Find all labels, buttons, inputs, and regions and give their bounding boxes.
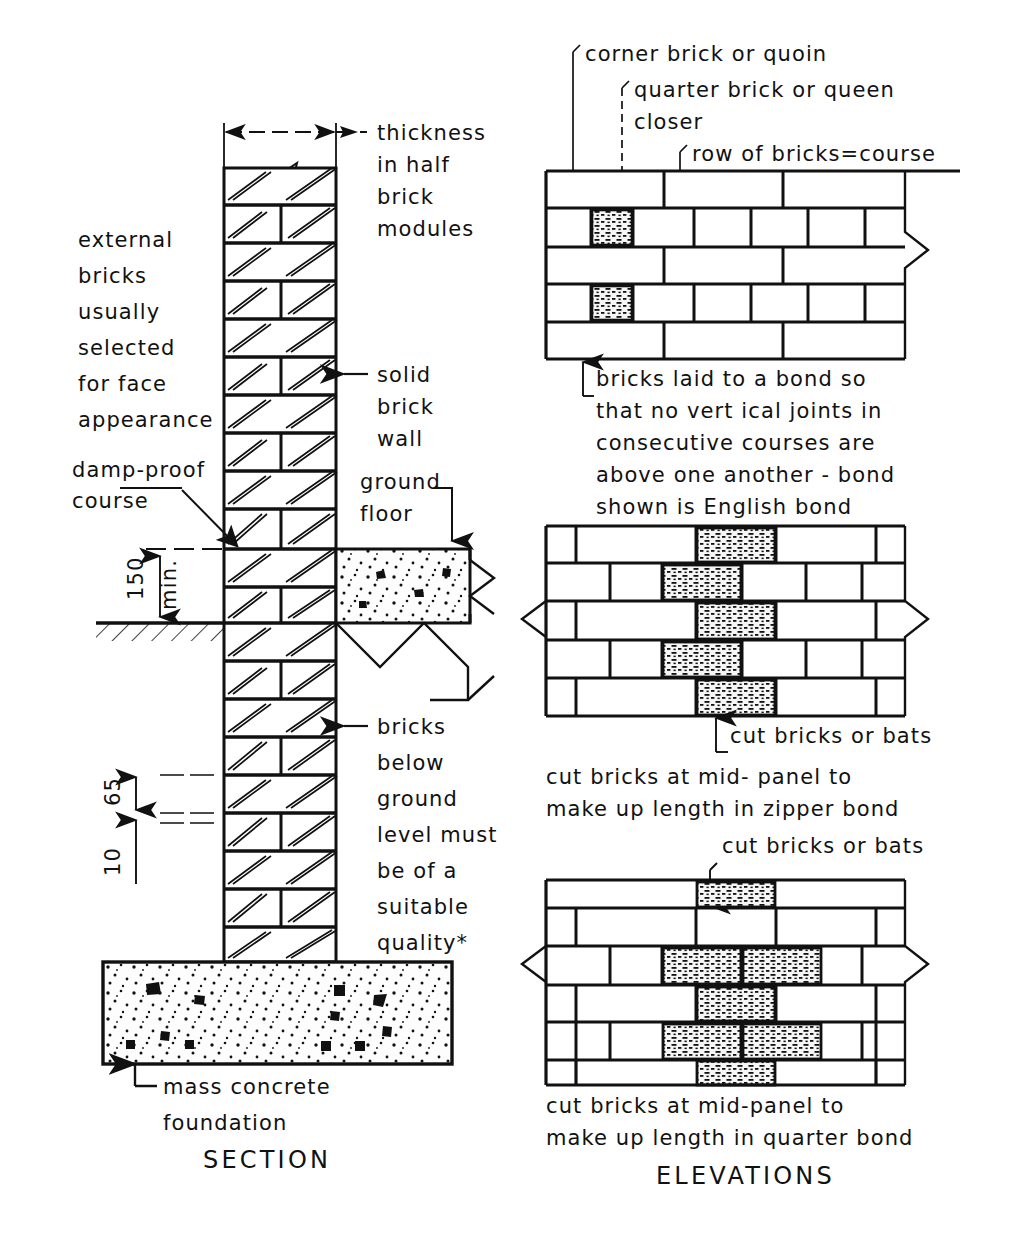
svg-text:for face: for face	[78, 372, 167, 396]
svg-text:modules: modules	[377, 217, 474, 241]
svg-text:foundation: foundation	[163, 1111, 287, 1135]
queen-closer-brick	[592, 210, 632, 245]
dimension-10-value: 10	[101, 847, 125, 876]
callout-closer: closer	[634, 110, 703, 134]
svg-text:floor: floor	[360, 502, 413, 526]
svg-text:course: course	[72, 489, 149, 513]
svg-text:suitable: suitable	[377, 895, 469, 919]
drawing-sheet: 150 min. 65 10	[0, 0, 1026, 1237]
dimension-150-qualifier: min.	[157, 559, 181, 610]
technical-drawing-canvas: 150 min. 65 10	[0, 0, 1026, 1237]
svg-text:ground: ground	[360, 470, 441, 494]
callout-row-of-bricks: row of bricks=course	[692, 142, 936, 166]
svg-text:that no vert ical joints in: that no vert ical joints in	[596, 399, 882, 423]
dimension-150-value: 150	[124, 556, 148, 600]
svg-text:thickness: thickness	[377, 121, 486, 145]
svg-text:bricks: bricks	[377, 715, 446, 739]
svg-text:cut bricks at mid- panel to: cut bricks at mid- panel to	[546, 765, 852, 789]
svg-text:brick: brick	[377, 395, 434, 419]
svg-text:make up length in zipper bon: make up length in zipper bond	[546, 797, 900, 821]
svg-text:below: below	[377, 751, 445, 775]
svg-text:make up length in quarter bo: make up length in quarter bond	[546, 1126, 914, 1150]
callout-corner-brick: corner brick or quoin	[585, 42, 827, 66]
solid-brick-wall	[224, 168, 337, 962]
ground-line	[96, 623, 224, 641]
svg-text:quality*: quality*	[377, 931, 468, 955]
svg-text:consecutive courses are: consecutive courses are	[596, 431, 876, 455]
callout-cut-bricks-quarter: cut bricks or bats	[722, 834, 924, 858]
svg-text:be of a: be of a	[377, 859, 457, 883]
svg-text:usually: usually	[78, 300, 160, 324]
svg-text:selected: selected	[78, 336, 175, 360]
svg-text:bricks: bricks	[78, 264, 147, 288]
svg-text:level must: level must	[377, 823, 498, 847]
section-caption: SECTION	[203, 1146, 331, 1174]
svg-text:above one another - bond: above one another - bond	[596, 463, 895, 487]
svg-text:ground: ground	[377, 787, 458, 811]
svg-text:solid: solid	[377, 363, 431, 387]
svg-text:wall: wall	[377, 427, 423, 451]
queen-closer-brick	[592, 286, 632, 320]
svg-text:bricks laid to a bond so: bricks laid to a bond so	[596, 367, 867, 391]
english-bond-note: bricks laid to a bond so that no vert ic…	[596, 367, 895, 519]
svg-text:cut bricks at mid-panel to: cut bricks at mid-panel to	[546, 1094, 844, 1118]
svg-text:external: external	[78, 228, 173, 252]
callout-quarter-brick: quarter brick or queen	[634, 78, 895, 102]
callout-cut-bricks-zipper: cut bricks or bats	[730, 724, 932, 748]
svg-text:in half: in half	[377, 153, 450, 177]
svg-text:damp-proof: damp-proof	[72, 458, 205, 482]
svg-text:appearance: appearance	[78, 408, 214, 432]
ground-floor-slab	[336, 549, 494, 623]
svg-text:mass concrete: mass concrete	[163, 1075, 331, 1099]
elevations-caption: ELEVATIONS	[656, 1162, 835, 1190]
svg-text:shown is English bond: shown is English bond	[596, 495, 852, 519]
svg-text:brick: brick	[377, 185, 434, 209]
dimension-65-value: 65	[101, 777, 125, 806]
